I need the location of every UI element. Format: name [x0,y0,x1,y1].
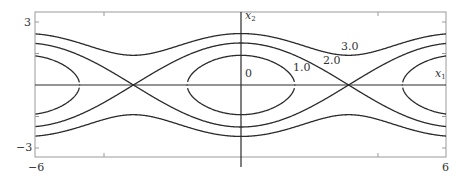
x1-axis-label-subscript: 1 [441,73,445,81]
curve-label-2: 2.0 [323,55,341,66]
curve-label-0: 0 [245,68,252,79]
x-tick-label-right: 6 [442,162,449,173]
y-tick-label-top: 3 [24,17,31,28]
coordinate-axes [35,12,446,167]
x1-axis-label: x1 [435,68,446,81]
x-tick-label-left: −6 [28,162,44,173]
curve-label-3: 3.0 [341,41,359,52]
phase-portrait-plot [0,0,470,182]
x2-axis-label: x2 [245,10,256,23]
curve-label-1: 1.0 [293,62,311,73]
x2-axis-label-subscript: 2 [251,15,255,23]
y-tick-label-bottom: −3 [16,142,32,153]
